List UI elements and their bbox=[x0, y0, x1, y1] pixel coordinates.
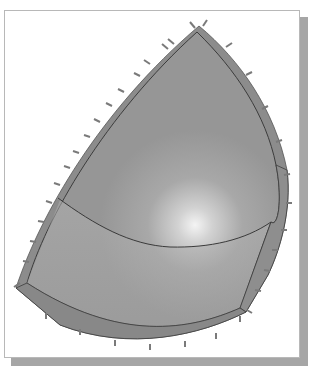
shell-surface-diagram bbox=[0, 0, 311, 368]
